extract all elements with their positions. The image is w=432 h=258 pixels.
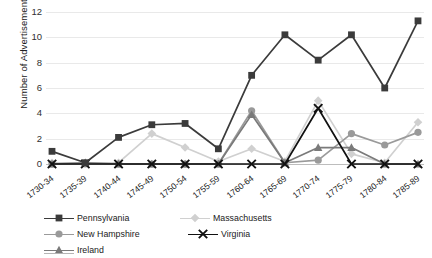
legend-item-massachusetts[interactable]: Massachusetts (180, 210, 306, 226)
y-axis-tick-label: 0 (18, 158, 42, 169)
legend-item-virginia[interactable]: Virginia (188, 226, 320, 242)
legend-item-pennsylvania[interactable]: Pennsylvania (44, 210, 176, 226)
legend-item-new-hampshire[interactable]: New Hampshire (44, 226, 184, 242)
series-new-hampshire (48, 107, 421, 167)
line-chart: Number of Advertisements 024681012 1730-… (0, 0, 432, 258)
legend-label: Virginia (221, 229, 250, 239)
legend-key-square-icon (44, 213, 74, 223)
chart-legend-overflow-row (0, 248, 432, 258)
legend-key-cross-icon (188, 229, 218, 239)
series-massachusetts (48, 96, 423, 167)
x-axis-tick-label: 1770-74 (291, 173, 322, 200)
series-layer (46, 12, 424, 164)
x-axis-tick-label: 1740-44 (91, 173, 122, 200)
x-axis-tick-label: 1785-89 (391, 173, 422, 200)
x-axis-tick-label: 1775-79 (324, 173, 355, 200)
x-axis-tick-label: 1755-59 (191, 173, 222, 200)
legend-label: New Hampshire (77, 229, 140, 239)
y-axis-tick-label: 8 (18, 57, 42, 68)
legend-key-cropped-icon (44, 248, 74, 258)
x-axis-tick-labels: 1730-341735-391740-441745-491750-541755-… (46, 166, 424, 210)
legend-item-cropped[interactable] (44, 248, 176, 258)
y-axis-tick-label: 2 (18, 133, 42, 144)
y-axis-tick-label: 10 (18, 31, 42, 42)
y-axis-tick-label: 12 (18, 6, 42, 17)
x-axis-tick-label: 1730-34 (25, 173, 56, 200)
x-axis-tick-label: 1745-49 (124, 173, 155, 200)
y-axis-tick-label: 4 (18, 107, 42, 118)
x-axis-tick-label: 1780-84 (357, 173, 388, 200)
x-axis-tick-label: 1750-54 (158, 173, 189, 200)
x-axis-tick-label: 1760-64 (224, 173, 255, 200)
series-pennsylvania (49, 17, 422, 166)
plot-area: 024681012 (46, 12, 424, 164)
x-axis-tick-label: 1735-39 (58, 173, 89, 200)
legend-label: Pennsylvania (77, 213, 129, 223)
legend-key-diamond-icon (180, 213, 210, 223)
x-axis-tick-label: 1765-69 (257, 173, 288, 200)
legend-key-circle-icon (44, 229, 74, 239)
y-axis-tick-label: 6 (18, 82, 42, 93)
legend-label: Massachusetts (213, 213, 272, 223)
